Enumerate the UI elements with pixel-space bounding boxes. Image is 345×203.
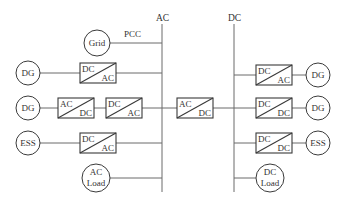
svg-text:AC: AC <box>101 143 114 153</box>
svg-text:DC: DC <box>277 108 290 118</box>
ess-label: ESS <box>20 138 36 148</box>
svg-text:DC: DC <box>82 64 95 74</box>
dc-ac-converter: DC AC <box>80 63 116 83</box>
grid-connection: PCC Grid <box>84 29 162 56</box>
ac-load-branch: AC Load <box>82 164 162 192</box>
ac-dc-converter: AC DC <box>58 98 94 118</box>
dc-ac-converter: DC AC <box>106 98 142 118</box>
dc-bus: DC <box>228 13 241 192</box>
dc-row3-ess-branch: DC DC ESS <box>234 131 330 155</box>
ac-bus-label: AC <box>156 13 169 23</box>
svg-text:DC: DC <box>258 99 271 109</box>
svg-text:AC: AC <box>277 75 290 85</box>
microgrid-diagram: AC DC PCC Grid DG DC AC DG AC <box>0 0 345 203</box>
dc-row2-dg-branch: DC DC DG <box>234 96 330 120</box>
interlink-branch: AC DC <box>162 98 234 118</box>
svg-text:DC: DC <box>277 143 290 153</box>
dc-dc-converter: DC DC <box>256 98 292 118</box>
svg-text:DC: DC <box>198 108 211 118</box>
svg-text:DC: DC <box>258 66 271 76</box>
ac-row3-ess-branch: ESS DC AC <box>16 131 162 155</box>
dg-label: DG <box>22 103 35 113</box>
svg-text:DC: DC <box>264 167 277 177</box>
svg-text:AC: AC <box>101 73 114 83</box>
dc-ac-converter: DC AC <box>80 133 116 153</box>
svg-text:AC: AC <box>60 99 73 109</box>
svg-text:Load: Load <box>87 178 106 188</box>
pcc-label: PCC <box>124 29 141 39</box>
ac-row1-dg-branch: DG DC AC <box>16 61 162 85</box>
dc-bus-label: DC <box>228 13 241 23</box>
svg-text:AC: AC <box>127 108 140 118</box>
ess-label: ESS <box>310 138 326 148</box>
ac-row2-dg-branch: DG AC DC DC AC <box>16 96 162 120</box>
dc-row1-dg-branch: DC AC DG <box>234 63 330 87</box>
svg-text:Load: Load <box>261 178 280 188</box>
svg-text:DC: DC <box>79 108 92 118</box>
svg-text:DC: DC <box>258 134 271 144</box>
dg-label: DG <box>312 70 325 80</box>
ac-bus: AC <box>156 13 169 192</box>
grid-label: Grid <box>89 38 106 48</box>
svg-text:DC: DC <box>108 99 121 109</box>
dg-label: DG <box>312 103 325 113</box>
svg-text:AC: AC <box>90 167 103 177</box>
dc-load-branch: DC Load <box>234 164 284 192</box>
svg-text:AC: AC <box>179 99 192 109</box>
dc-dc-converter: DC DC <box>256 133 292 153</box>
svg-text:DC: DC <box>82 134 95 144</box>
ac-dc-interlink-converter: AC DC <box>177 98 213 118</box>
dg-label: DG <box>22 68 35 78</box>
dc-ac-converter: DC AC <box>256 65 292 85</box>
